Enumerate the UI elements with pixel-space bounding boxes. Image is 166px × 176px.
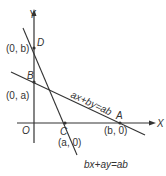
point-C xyxy=(63,121,66,124)
point-B-label: B xyxy=(27,70,34,81)
x-axis-arrow-icon xyxy=(149,121,156,126)
x-axis-label: X xyxy=(156,118,164,129)
line-ax-by-label: ax+by=ab xyxy=(69,89,114,118)
line-bx-ay xyxy=(23,28,77,155)
point-C-label: C xyxy=(60,126,68,137)
point-D-label: D xyxy=(37,37,44,48)
origin-label: O xyxy=(22,125,30,136)
point-B-coords: (0, a) xyxy=(6,90,29,101)
point-A-coords: (b, 0) xyxy=(104,125,127,136)
coordinate-diagram: Y X O D (0, b) B (0, a) C (a, 0) A (b, 0… xyxy=(0,0,166,176)
point-D-coords: (0, b) xyxy=(6,43,29,54)
point-C-coords: (a, 0) xyxy=(58,137,81,148)
point-D xyxy=(32,46,35,49)
line-bx-ay-label: bx+ay=ab xyxy=(84,159,128,170)
point-A-label: A xyxy=(115,110,123,121)
